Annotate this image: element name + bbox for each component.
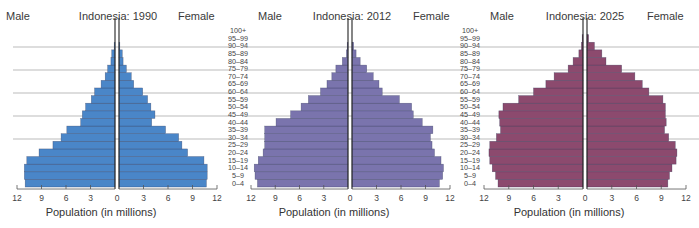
bar-male-0–4 bbox=[257, 179, 348, 187]
bar-female-70–74 bbox=[119, 73, 131, 81]
bar-female-15–19 bbox=[352, 157, 441, 165]
bar-male-20–24 bbox=[489, 149, 583, 157]
x-tick-label: 12 bbox=[479, 193, 489, 203]
bar-female-60–64 bbox=[587, 88, 649, 96]
bar-male-50–54 bbox=[301, 103, 348, 111]
x-tick-label: 0 bbox=[115, 193, 120, 203]
bar-male-0–4 bbox=[25, 179, 115, 187]
bar-male-60–64 bbox=[534, 88, 584, 96]
x-tick-label: 0 bbox=[583, 193, 588, 203]
x-tick-label: 3 bbox=[609, 193, 614, 203]
x-tick-label: 12 bbox=[12, 193, 22, 203]
bar-male-45–49 bbox=[82, 111, 115, 119]
bar-female-30–34 bbox=[352, 134, 430, 142]
x-tick-label: 9 bbox=[39, 193, 44, 203]
bar-male-40–44 bbox=[276, 118, 348, 126]
bar-female-40–44 bbox=[119, 118, 152, 126]
bar-female-25–29 bbox=[352, 141, 432, 149]
population-pyramids-figure: 12963036912Population (in millions)MaleI… bbox=[0, 0, 699, 228]
bar-male-75–79 bbox=[336, 65, 348, 73]
x-tick-label: 12 bbox=[681, 193, 691, 203]
bar-male-35–39 bbox=[67, 126, 115, 134]
bar-female-5–9 bbox=[587, 172, 670, 180]
x-tick-label: 12 bbox=[212, 193, 222, 203]
bar-female-55–59 bbox=[587, 96, 663, 104]
bar-female-20–24 bbox=[119, 149, 188, 157]
bar-male-75–79 bbox=[568, 65, 583, 73]
bar-female-60–64 bbox=[119, 88, 143, 96]
age-group-label: 100+ bbox=[462, 26, 478, 35]
bar-male-35–39 bbox=[265, 126, 348, 134]
bar-male-5–9 bbox=[255, 172, 348, 180]
bar-female-40–44 bbox=[587, 118, 666, 126]
x-tick-label: 6 bbox=[634, 193, 639, 203]
x-tick-label: 3 bbox=[141, 193, 146, 203]
x-tick-label: 6 bbox=[399, 193, 404, 203]
bar-male-50–54 bbox=[86, 103, 115, 111]
bar-male-80–84 bbox=[342, 57, 348, 65]
bar-male-60–64 bbox=[321, 88, 348, 96]
bar-female-70–74 bbox=[587, 73, 635, 81]
bar-female-75–79 bbox=[352, 65, 367, 73]
bar-female-65–69 bbox=[587, 80, 642, 88]
bar-male-65–69 bbox=[327, 80, 348, 88]
x-tick-label: 6 bbox=[297, 193, 302, 203]
bar-male-60–64 bbox=[95, 88, 115, 96]
chart-title: Indonesia: 1990 bbox=[79, 10, 157, 22]
male-label: Male bbox=[490, 10, 514, 22]
bar-male-65–69 bbox=[546, 80, 583, 88]
bar-male-25–29 bbox=[53, 141, 115, 149]
chart-title: Indonesia: 2012 bbox=[313, 10, 391, 22]
bar-male-10–14 bbox=[254, 164, 348, 172]
bar-female-0–4 bbox=[587, 179, 668, 187]
bar-male-80–84 bbox=[111, 57, 115, 65]
bar-male-20–24 bbox=[39, 149, 115, 157]
bar-male-35–39 bbox=[501, 126, 584, 134]
bar-male-40–44 bbox=[81, 118, 115, 126]
x-tick-label: 6 bbox=[166, 193, 171, 203]
bar-female-10–14 bbox=[352, 164, 443, 172]
bar-male-0–4 bbox=[498, 179, 583, 187]
bar-male-20–24 bbox=[263, 149, 348, 157]
bar-female-25–29 bbox=[587, 141, 675, 149]
bar-female-50–54 bbox=[352, 103, 412, 111]
bar-male-5–9 bbox=[24, 172, 115, 180]
bar-male-25–29 bbox=[265, 141, 348, 149]
bar-male-30–34 bbox=[265, 134, 348, 142]
x-tick-label: 3 bbox=[321, 193, 326, 203]
male-label: Male bbox=[258, 10, 282, 22]
pyramid-1: 12963036912Population (in millions)MaleI… bbox=[6, 10, 248, 218]
bar-female-50–54 bbox=[119, 103, 151, 111]
bar-female-75–79 bbox=[119, 65, 126, 73]
bar-female-55–59 bbox=[119, 96, 148, 104]
bar-male-25–29 bbox=[490, 141, 583, 149]
x-tick-label: 9 bbox=[506, 193, 511, 203]
pyramid-3: 12963036912Population (in millions)MaleI… bbox=[478, 10, 699, 218]
x-tick-label: 12 bbox=[445, 193, 455, 203]
bar-female-15–19 bbox=[119, 157, 204, 165]
female-label: Female bbox=[647, 10, 684, 22]
bar-male-55–59 bbox=[519, 96, 583, 104]
bar-female-0–4 bbox=[352, 179, 439, 187]
age-group-label: 100+ bbox=[230, 26, 246, 35]
x-tick-label: 9 bbox=[273, 193, 278, 203]
pyramid-2: 12963036912Population (in millions)MaleI… bbox=[244, 10, 480, 218]
x-tick-label: 12 bbox=[246, 193, 256, 203]
x-axis-label: Population (in millions) bbox=[279, 206, 390, 218]
bar-female-80–84 bbox=[587, 57, 606, 65]
bar-male-80–84 bbox=[573, 57, 583, 65]
bar-female-35–39 bbox=[352, 126, 433, 134]
bar-male-85–89 bbox=[579, 50, 583, 58]
x-tick-label: 9 bbox=[423, 193, 428, 203]
bar-male-75–79 bbox=[108, 65, 115, 73]
x-tick-label: 9 bbox=[659, 193, 664, 203]
x-tick-label: 6 bbox=[64, 193, 69, 203]
bar-male-15–19 bbox=[27, 157, 115, 165]
x-tick-label: 6 bbox=[531, 193, 536, 203]
x-axis-label: Population (in millions) bbox=[514, 206, 625, 218]
bar-female-30–34 bbox=[119, 134, 179, 142]
bar-female-90–94 bbox=[587, 42, 594, 50]
male-label: Male bbox=[6, 10, 30, 22]
bar-male-45–49 bbox=[499, 111, 583, 119]
bar-male-50–54 bbox=[503, 103, 583, 111]
